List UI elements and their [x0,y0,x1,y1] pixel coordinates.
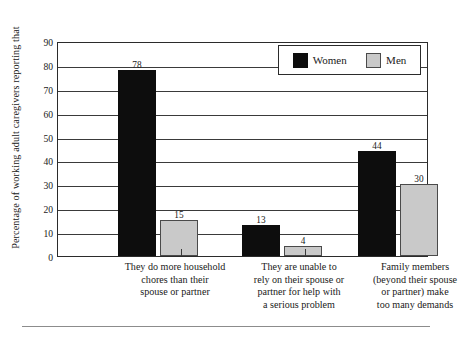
chart-legend: WomenMen [278,45,421,75]
y-axis-tick-label: 60 [31,108,53,119]
footer-rule [22,326,430,327]
legend-entry-men[interactable]: Men [366,53,406,68]
y-axis-tick-labels: 0102030405060708090 [28,42,53,257]
y-axis-tick-label: 50 [31,132,53,143]
y-axis-tick-label: 30 [31,180,53,191]
legend-entry-women[interactable]: Women [293,53,347,68]
black-swatch [293,53,308,68]
gray-swatch [366,53,381,68]
category-label-line: too many demands [340,299,462,312]
y-axis-tick-label: 0 [31,252,53,263]
x-axis-category-labels: They do more householdchores than theirs… [57,261,428,323]
category-label-line: (beyond their spouse [340,274,462,287]
legend-label: Men [386,54,406,66]
category-label-line: Family members [340,261,462,274]
y-axis-tick-label: 10 [31,228,53,239]
y-axis-title-text: Percentage of working adult caregivers r… [10,26,21,249]
y-axis-title: Percentage of working adult caregivers r… [0,0,30,275]
x-axis-category-label-3: Family members(beyond their spouseor par… [340,261,462,311]
legend-label: Women [313,54,347,66]
group-separator-tick [305,249,306,256]
y-axis-tick-label: 90 [31,37,53,48]
category-label-line: or partner) make [340,286,462,299]
y-axis-tick-label: 40 [31,156,53,167]
group-separator-tick [181,249,182,256]
y-axis-tick-label: 70 [31,84,53,95]
y-axis-tick-label: 80 [31,60,53,71]
y-axis-tick-label: 20 [31,204,53,215]
